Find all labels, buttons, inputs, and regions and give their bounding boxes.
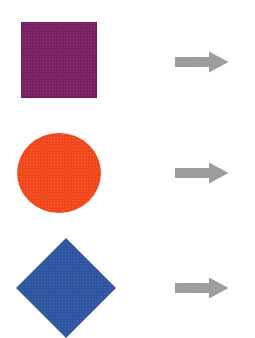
blue-diamond-shape: [16, 238, 116, 338]
right-arrow-icon-row-3: [175, 277, 229, 299]
blue-diamond-fill: [16, 238, 116, 338]
right-arrow-icon-row-2: [175, 162, 229, 184]
purple-square-shape: [21, 22, 97, 98]
right-arrow-icon-row-1: [175, 51, 229, 73]
shapes-and-arrows-canvas: [0, 0, 255, 338]
purple-square-fill: [21, 22, 97, 98]
orange-circle-shape: [17, 133, 101, 213]
orange-circle-fill: [17, 133, 101, 213]
